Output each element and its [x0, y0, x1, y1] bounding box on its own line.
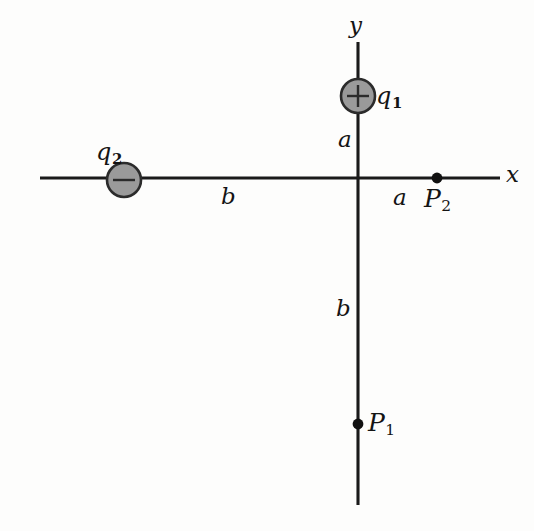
point-P2-dot [432, 173, 443, 184]
charge-q2-label: q2 [96, 140, 122, 167]
charge-q2-label-subscript: 2 [111, 150, 122, 168]
point-P1-dot [353, 419, 364, 430]
point-P2-label-base: P [424, 184, 441, 213]
physics-diagram-figure: y x q1 q2 P1 P2 a b a b [0, 0, 534, 531]
x-axis-label: x [506, 163, 519, 186]
point-P1-label: P1 [368, 410, 395, 439]
point-P2-label: P2 [424, 186, 451, 215]
y-axis-label: y [349, 14, 362, 37]
charge-q1 [341, 79, 375, 113]
charge-q2 [107, 163, 141, 197]
point-P2-label-subscript: 2 [441, 197, 451, 215]
distance-label-b-below-origin: b [336, 297, 351, 320]
point-P1-label-subscript: 1 [385, 421, 395, 439]
distance-label-a-right-of-origin: a [393, 186, 407, 209]
charge-q1-label: q1 [376, 84, 402, 111]
charge-q1-label-base: q [376, 82, 391, 110]
diagram-canvas [0, 0, 534, 531]
distance-label-a-above-origin: a [338, 128, 352, 151]
charge-q1-label-subscript: 1 [391, 94, 402, 112]
charge-q2-label-base: q [96, 138, 111, 166]
point-P1-label-base: P [368, 408, 385, 437]
distance-label-b-left-of-origin: b [221, 185, 236, 208]
